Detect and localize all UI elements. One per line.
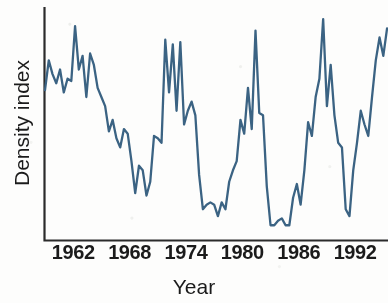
series-line-density-index [45, 19, 387, 225]
y-axis-title-wrapper: Density index [0, 0, 44, 245]
x-tick-label: 1962 [52, 241, 95, 264]
y-axis-title: Density index [10, 59, 34, 185]
chart-figure: 1962 1968 1974 1980 1986 1992 Year Densi… [0, 0, 388, 303]
x-tick-label: 1986 [277, 241, 320, 264]
x-tick-label: 1980 [221, 241, 264, 264]
x-tick-label: 1974 [165, 241, 208, 264]
x-tick-label: 1968 [108, 241, 151, 264]
x-axis-title: Year [0, 275, 388, 299]
x-tick-label: 1992 [334, 241, 377, 264]
